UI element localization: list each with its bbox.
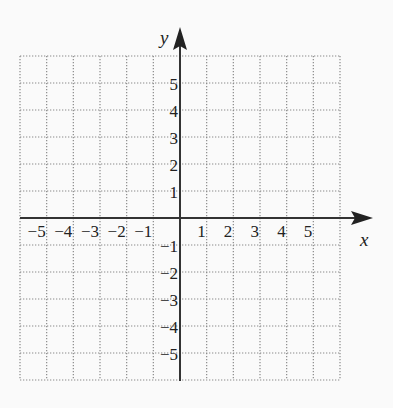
- y-tick-label: 1: [170, 183, 179, 202]
- coordinate-plane: x y −5−4−3−2−112345 54321−1−2−3−4−5: [0, 0, 393, 408]
- y-tick-label: −4: [160, 318, 179, 337]
- x-tick-label: −4: [54, 222, 73, 241]
- x-tick-label: −2: [108, 222, 126, 241]
- y-tick-label: −2: [160, 264, 178, 283]
- x-tick-label: 2: [224, 222, 233, 241]
- y-tick-label: 2: [170, 156, 179, 175]
- y-axis-label: y: [158, 27, 169, 48]
- y-tick-label: 4: [170, 102, 179, 121]
- y-tick-label: 5: [170, 75, 179, 94]
- x-axis-label: x: [359, 229, 369, 250]
- y-tick-label: −3: [160, 291, 178, 310]
- x-tick-label: 4: [277, 222, 286, 241]
- x-tick-label: −5: [28, 222, 46, 241]
- x-tick-label: −3: [81, 222, 99, 241]
- y-tick-label: 3: [170, 129, 179, 148]
- y-tick-label: −1: [160, 237, 178, 256]
- x-tick-label: −1: [134, 222, 152, 241]
- x-tick-label: 3: [251, 222, 260, 241]
- x-tick-label: 5: [304, 222, 313, 241]
- y-tick-labels: 54321−1−2−3−4−5: [160, 75, 179, 364]
- y-tick-label: −5: [160, 345, 178, 364]
- x-tick-label: 1: [197, 222, 206, 241]
